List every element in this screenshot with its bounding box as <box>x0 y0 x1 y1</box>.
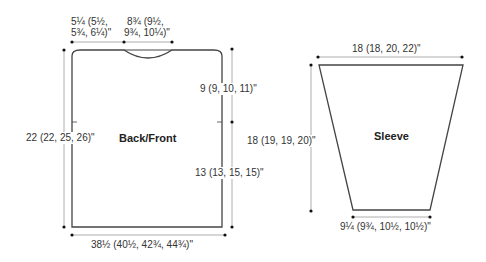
sleeve-cuff-dimension-line <box>351 215 431 218</box>
width-dimension-line <box>70 233 226 236</box>
sleeve-top-width-label: 18 (18, 20, 22)" <box>352 43 421 55</box>
armhole-depth-label: 9 (9, 10, 11)" <box>200 83 257 95</box>
shoulder-width-label-line2: 5¾, 6¼)" <box>71 27 111 39</box>
right-dimension-line <box>217 47 234 228</box>
back-front-title: Back/Front <box>119 132 176 144</box>
sleeve-top-dimension-line <box>316 55 463 58</box>
sleeve-cuff-width-label: 9¼ (9¾, 10½, 10½)" <box>340 221 431 233</box>
total-length-label: 22 (22, 25, 26)" <box>26 132 95 144</box>
neck-width-label-line2: 9¾, 10¼)" <box>124 27 170 39</box>
body-width-label: 38½ (40½, 42¾, 44¾)" <box>91 239 193 251</box>
sleeve-length-label: 18 (19, 19, 20)" <box>247 135 316 147</box>
top-dimension-line <box>70 40 173 43</box>
sleeve-title: Sleeve <box>374 130 409 142</box>
side-length-label: 13 (13, 15, 15)" <box>195 167 264 179</box>
